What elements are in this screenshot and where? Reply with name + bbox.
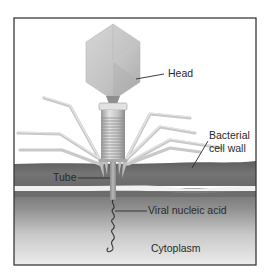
label-bacterial-cell-wall-line1: Bacterial xyxy=(209,130,250,141)
label-head: Head xyxy=(168,68,193,79)
label-tube: Tube xyxy=(53,172,77,183)
label-viral-nucleic-acid: Viral nucleic acid xyxy=(148,205,227,216)
base-plate xyxy=(99,159,127,162)
phage-collar xyxy=(99,103,127,110)
label-cytoplasm: Cytoplasm xyxy=(151,243,201,254)
inner-membrane-band xyxy=(14,191,256,197)
label-bacterial-cell-wall-line2: cell wall xyxy=(209,143,246,154)
cytoplasm-region xyxy=(14,188,256,266)
bacterial-cell-wall xyxy=(14,161,256,186)
tail-sheath xyxy=(101,110,125,160)
phage-tube xyxy=(110,162,116,200)
